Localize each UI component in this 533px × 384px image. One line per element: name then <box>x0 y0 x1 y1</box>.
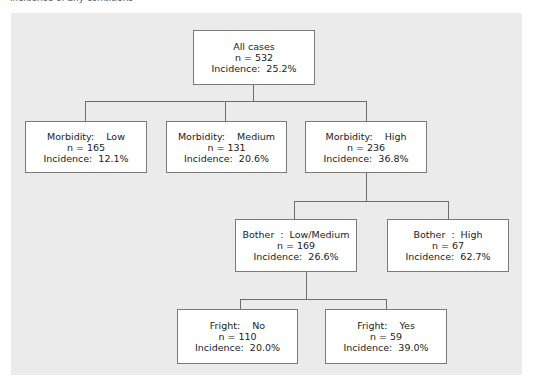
connector-level2-bar <box>294 201 449 202</box>
node-incidence: Incidence: 26.6% <box>253 251 338 262</box>
node-n: n = 67 <box>432 240 464 251</box>
connector-to-low <box>85 101 86 121</box>
node-n: n = 59 <box>370 331 402 342</box>
node-incidence: Incidence: 20.6% <box>184 153 269 164</box>
node-all-cases: All cases n = 532 Incidence: 25.2% <box>193 30 315 85</box>
node-label: Bother : High <box>414 229 483 240</box>
connector-to-bother-high <box>448 201 449 219</box>
node-incidence: Incidence: 36.8% <box>323 153 408 164</box>
node-label: Fright: Yes <box>357 320 415 331</box>
connector-to-high <box>366 101 367 121</box>
node-label: Fright: No <box>210 320 265 331</box>
node-incidence: Incidence: 20.0% <box>195 342 280 353</box>
node-morbidity-medium: Morbidity: Medium n = 131 Incidence: 20.… <box>166 121 287 173</box>
node-bother-low-medium: Bother : Low/Medium n = 169 Incidence: 2… <box>235 219 357 272</box>
node-n: n = 236 <box>347 142 385 153</box>
connector-root-down <box>253 85 254 101</box>
node-n: n = 131 <box>207 142 245 153</box>
connector-to-medium <box>225 101 226 121</box>
node-n: n = 532 <box>235 52 273 63</box>
node-label: All cases <box>233 41 275 52</box>
node-incidence: Incidence: 25.2% <box>211 63 296 74</box>
node-fright-yes: Fright: Yes n = 59 Incidence: 39.0% <box>325 309 447 364</box>
node-incidence: Incidence: 12.1% <box>43 153 128 164</box>
connector-to-fright-no <box>240 299 241 309</box>
connector-level1-bar <box>85 101 367 102</box>
node-n: n = 165 <box>67 142 105 153</box>
node-morbidity-high: Morbidity: High n = 236 Incidence: 36.8% <box>305 121 427 173</box>
node-morbidity-low: Morbidity: Low n = 165 Incidence: 12.1% <box>25 121 147 173</box>
node-bother-high: Bother : High n = 67 Incidence: 62.7% <box>387 219 509 272</box>
connector-to-fright-yes <box>386 299 387 309</box>
node-label: Morbidity: High <box>325 131 406 142</box>
connector-high-down <box>366 173 367 201</box>
connector-bother-low-down <box>306 272 307 299</box>
connector-to-bother-low <box>294 201 295 219</box>
node-n: n = 169 <box>277 240 315 251</box>
node-incidence: Incidence: 39.0% <box>343 342 428 353</box>
node-n: n = 110 <box>218 331 256 342</box>
node-incidence: Incidence: 62.7% <box>405 251 490 262</box>
connector-level3-bar <box>240 299 387 300</box>
node-label: Bother : Low/Medium <box>242 229 349 240</box>
node-fright-no: Fright: No n = 110 Incidence: 20.0% <box>177 309 298 364</box>
node-label: Morbidity: Medium <box>178 131 275 142</box>
node-label: Morbidity: Low <box>47 131 125 142</box>
figure-caption: incidence of any conditions <box>10 0 133 3</box>
